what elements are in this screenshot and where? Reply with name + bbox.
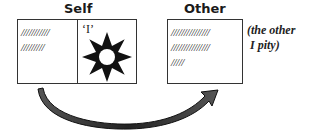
curved-arrow-icon — [0, 0, 321, 132]
